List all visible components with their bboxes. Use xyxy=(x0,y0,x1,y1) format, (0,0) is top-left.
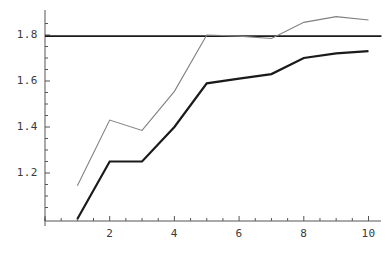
x-axis-tick-label: 4 xyxy=(154,227,194,240)
data-series xyxy=(45,17,381,219)
chart-figure: 1.21.41.61.8 246810 xyxy=(0,0,387,255)
series-line-dark-curve xyxy=(77,51,368,219)
x-axis-tick-label: 2 xyxy=(90,227,130,240)
y-axis-tick-label: 1.2 xyxy=(17,166,38,179)
series-line-gray-curve xyxy=(77,17,368,186)
plot-area xyxy=(0,0,387,255)
y-axis-tick-label: 1.6 xyxy=(17,74,38,87)
x-axis-tick-label: 10 xyxy=(349,227,387,240)
x-axis-tick-label: 8 xyxy=(284,227,324,240)
y-axis-tick-label: 1.8 xyxy=(17,28,38,41)
x-axis-tick-label: 6 xyxy=(219,227,259,240)
axes xyxy=(45,10,381,226)
y-axis-tick-label: 1.4 xyxy=(17,120,38,133)
